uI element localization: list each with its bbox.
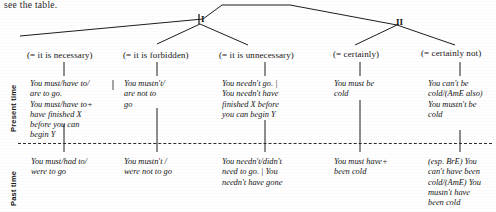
cell-past-forbidden: You mustn't / were not to go	[124, 157, 196, 178]
cell-present-certainly: You must be cold	[334, 79, 404, 100]
tree-edge-II-to-col5	[397, 25, 455, 45]
row-label-present-time: Present time	[9, 85, 18, 132]
tree-node-label-II: II	[396, 18, 403, 27]
tree-edge-I-to-col3	[200, 24, 248, 45]
column-header-unnecessary: (= it is unnecessary)	[219, 50, 294, 60]
tree-edge-II-to-col4	[355, 25, 397, 45]
cell-present-certainly-not: You can't be cold/(AmE also) You mustn't…	[428, 79, 496, 120]
cell-past-certainly: You must have+ been cold	[334, 157, 410, 178]
column-header-forbidden: (= it is forbidden)	[123, 50, 189, 60]
column-header-certainly-not: (= certainly not)	[421, 48, 481, 58]
cell-present-unnecessary: You needn't go. | You needn't have finis…	[222, 79, 310, 120]
cell-past-unnecessary: You needn't/didn't need to go. | You nee…	[222, 157, 312, 188]
column-header-necessary: (= it is necessary)	[27, 50, 93, 60]
running-text: see the table.	[4, 0, 58, 10]
present-past-divider	[18, 143, 492, 144]
tree-edge-I-to-col2	[157, 24, 200, 44]
tree-node-label-I: I	[201, 15, 205, 24]
tree-edge-apex-to-I	[203, 5, 222, 19]
tree-edge-I-to-col1-long	[20, 19, 203, 36]
tree-edge-apex-to-II	[290, 5, 397, 25]
column-header-certainly: (= certainly)	[333, 49, 379, 59]
cell-present-necessary: You must/have to/ are to go. You must/ha…	[30, 79, 122, 141]
cell-past-necessary: You must/had to/ were to go	[31, 157, 123, 178]
row-label-past-time: Past time	[9, 171, 18, 206]
cell-past-certainly-not: (esp. BrE) You can't have been cold/(AmE…	[428, 157, 496, 208]
figure-page: see the table.	[0, 0, 496, 212]
cell-present-forbidden: You mustn't/ are not to go	[124, 79, 188, 110]
